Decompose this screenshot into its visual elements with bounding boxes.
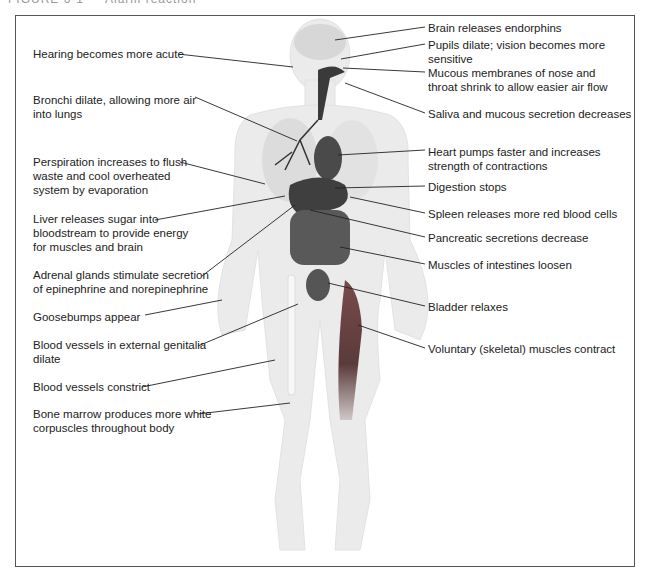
bladder-icon — [306, 269, 330, 301]
label-bladder: Bladder relaxes — [428, 300, 508, 314]
label-saliva: Saliva and mucous secretion decreases — [428, 107, 631, 121]
label-pancreas: Pancreatic secretions decrease — [428, 231, 588, 245]
label-intestines: Muscles of intestines loosen — [428, 258, 572, 272]
label-spleen: Spleen releases more red blood cells — [428, 207, 617, 221]
brain-icon — [294, 24, 346, 60]
label-adrenal: Adrenal glands stimulate secretion of ep… — [33, 268, 209, 296]
label-digestion: Digestion stops — [428, 180, 507, 194]
intestines-icon — [290, 210, 350, 265]
label-perspiration: Perspiration increases to flush waste an… — [33, 155, 187, 197]
label-pupils: Pupils dilate; vision becomes more sensi… — [428, 38, 605, 66]
label-marrow: Bone marrow produces more white corpuscl… — [33, 407, 211, 435]
label-liver: Liver releases sugar into bloodstream to… — [33, 212, 188, 254]
label-genitalia: Blood vessels in external genitalia dila… — [33, 338, 206, 366]
femur-bone-icon — [288, 275, 295, 395]
label-brain: Brain releases endorphins — [428, 21, 562, 35]
label-goosebumps: Goosebumps appear — [33, 310, 140, 324]
label-voluntary: Voluntary (skeletal) muscles contract — [428, 342, 615, 356]
label-hearing: Hearing becomes more acute — [33, 47, 184, 61]
label-constrict: Blood vessels constrict — [33, 380, 150, 394]
label-bronchi: Bronchi dilate, allowing more air into l… — [33, 93, 196, 121]
label-heart: Heart pumps faster and increases strengt… — [428, 145, 601, 173]
heart-icon — [314, 136, 342, 180]
label-mucous: Mucous membranes of nose and throat shri… — [428, 66, 608, 94]
